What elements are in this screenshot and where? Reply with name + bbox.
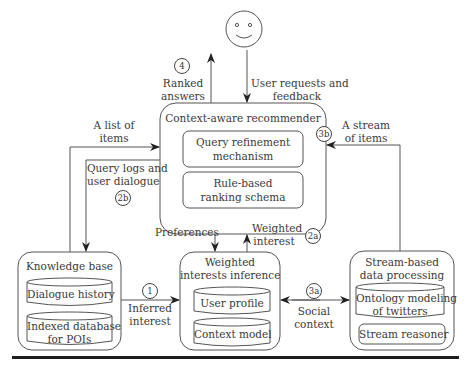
stream-of-items-arrow bbox=[327, 145, 400, 251]
indexed-database-line2: for POIs bbox=[27, 333, 112, 346]
inferred-interest-line1: Inferred bbox=[128, 302, 172, 315]
user-requests-line1: User requests and bbox=[251, 77, 343, 90]
list-of-items-line2: items bbox=[85, 132, 143, 145]
weighted-interest-line2: interest bbox=[252, 235, 296, 248]
weighted-interest-line1: Weighted bbox=[252, 222, 296, 235]
stream-of-items-line1: A stream bbox=[338, 119, 394, 132]
stream-based-title-line2: data processing bbox=[350, 269, 454, 282]
ranked-answers-line1: Ranked bbox=[160, 77, 206, 90]
dialogue-history-label: Dialogue history bbox=[27, 288, 112, 301]
ontology-modeling-line1: Ontology modeling bbox=[356, 292, 444, 305]
recommender-title: Context-aware recommender bbox=[160, 112, 326, 125]
step-2b-badge: 2b bbox=[115, 190, 131, 206]
step-1-badge: 1 bbox=[142, 283, 158, 299]
query-logs-line2: user dialogue bbox=[87, 175, 159, 188]
step-3a-badge: 3a bbox=[306, 283, 322, 299]
stream-reasoner-label: Stream reasoner bbox=[359, 328, 445, 341]
weighted-interests-title-line1: Weighted bbox=[180, 256, 280, 269]
list-of-items-line1: A list of bbox=[85, 119, 143, 132]
context-model-label: Context model bbox=[194, 328, 270, 341]
inferred-interest-line2: interest bbox=[128, 315, 172, 328]
weighted-interests-title-line2: interests inference bbox=[180, 269, 280, 282]
step-2a-badge: 2a bbox=[305, 228, 321, 244]
query-refinement-line2: mechanism bbox=[183, 150, 303, 163]
step-4-badge: 4 bbox=[174, 58, 190, 74]
step-3b-badge: 3b bbox=[316, 126, 332, 142]
knowledge-base-title: Knowledge base bbox=[18, 260, 121, 273]
user-requests-line2: feedback bbox=[251, 90, 343, 103]
preferences-label: Preferences bbox=[155, 226, 213, 239]
user-profile-label: User profile bbox=[194, 297, 270, 310]
bottom-rule-divider bbox=[12, 356, 459, 359]
ontology-modeling-line2: of twitters bbox=[356, 305, 444, 318]
social-context-line1: Social bbox=[292, 305, 336, 318]
smiley-user-icon bbox=[226, 11, 262, 47]
stream-of-items-line2: of items bbox=[338, 132, 394, 145]
query-logs-line1: Query logs and bbox=[87, 162, 159, 175]
indexed-database-line1: Indexed database bbox=[27, 320, 112, 333]
rule-based-line2: ranking schema bbox=[183, 191, 303, 204]
social-context-line2: context bbox=[292, 318, 336, 331]
stream-based-title-line1: Stream-based bbox=[350, 256, 454, 269]
query-refinement-line1: Query refinement bbox=[183, 136, 303, 149]
rule-based-line1: Rule-based bbox=[183, 177, 303, 190]
ranked-answers-line2: answers bbox=[160, 90, 206, 103]
